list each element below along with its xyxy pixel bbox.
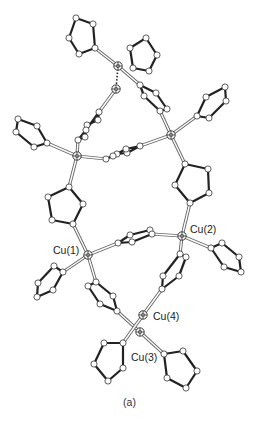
carbon-atom: [219, 240, 225, 246]
label-cu1: Cu(1): [53, 245, 79, 256]
carbon-atom: [93, 279, 99, 285]
label-cu2: Cu(2): [190, 224, 216, 235]
carbon-atom: [183, 254, 189, 260]
carbon-atom: [221, 264, 227, 270]
carbon-atom: [149, 231, 155, 237]
carbon-atom: [194, 113, 200, 119]
copper-atom-cu3: [136, 328, 144, 336]
carbon-atom: [176, 273, 182, 279]
carbon-atom: [180, 348, 186, 354]
carbon-atom: [60, 269, 66, 275]
carbon-atom: [153, 90, 159, 96]
carbon-atom: [49, 217, 55, 223]
carbon-atom: [70, 221, 76, 227]
carbon-atom: [31, 144, 37, 150]
label-cu4: Cu(4): [153, 311, 179, 322]
carbon-atom: [161, 351, 167, 357]
carbon-atom: [129, 239, 135, 245]
carbon-atom: [82, 134, 88, 140]
ring: [16, 119, 47, 147]
carbon-atom: [66, 35, 72, 41]
carbon-atom: [110, 153, 116, 159]
carbon-atom: [73, 15, 79, 21]
carbon-atom: [13, 129, 19, 135]
copper-atom-cuL: [73, 152, 81, 160]
molecular-structure-diagram: [0, 0, 259, 427]
carbon-atom: [50, 287, 56, 293]
carbon-atom: [90, 21, 96, 27]
carbon-atom: [44, 140, 50, 146]
carbon-atom: [182, 161, 188, 167]
ring: [162, 254, 186, 289]
copper-atom-cuR: [167, 131, 175, 139]
carbon-atom: [92, 45, 98, 51]
carbon-atom: [45, 194, 51, 200]
carbon-atom: [85, 283, 91, 289]
carbon-atom: [66, 184, 72, 190]
copper-atom-cuTop: [114, 62, 122, 70]
carbon-atom: [222, 84, 228, 90]
carbon-atom: [177, 251, 183, 257]
carbon-atom: [183, 385, 189, 391]
carbon-atom: [154, 52, 160, 58]
carbon-atom: [115, 240, 121, 246]
carbon-atom: [223, 98, 229, 104]
carbon-atom: [15, 116, 21, 122]
copper-atom-cuDash: [112, 85, 120, 93]
cut-off-caption-line: [8, 418, 248, 427]
copper-atom-cu2: [178, 232, 186, 240]
carbon-atom: [120, 365, 126, 371]
carbon-atom: [187, 200, 193, 206]
carbon-atom: [236, 254, 242, 260]
carbon-atom: [194, 368, 200, 374]
carbon-atom: [76, 51, 82, 57]
carbon-atom: [164, 375, 170, 381]
carbon-atom: [137, 82, 143, 88]
carbon-atom: [205, 166, 211, 172]
carbon-atom: [127, 232, 133, 238]
carbon-atom: [105, 378, 111, 384]
carbon-atom: [91, 361, 97, 367]
carbon-atom: [95, 117, 101, 123]
carbon-atom: [159, 286, 165, 292]
carbon-atom: [120, 340, 126, 346]
carbon-atom: [143, 35, 149, 41]
carbon-atom: [80, 201, 86, 207]
carbon-atom: [51, 263, 57, 269]
carbon-atom: [127, 45, 133, 51]
carbon-atom: [75, 137, 81, 143]
carbon-atom: [164, 106, 170, 112]
carbon-atom: [141, 93, 147, 99]
carbon-atom: [203, 94, 209, 100]
carbon-atom: [83, 127, 89, 133]
carbon-atom: [101, 340, 107, 346]
carbon-atom: [97, 301, 103, 307]
carbon-atom: [35, 280, 41, 286]
carbon-atom: [130, 65, 136, 71]
ring: [175, 164, 209, 203]
crystal-structure-figure: Cu(1) Cu(2) Cu(3) Cu(4) (a): [0, 0, 259, 427]
panel-label: (a): [0, 396, 259, 408]
ring: [197, 87, 226, 118]
carbon-atom: [34, 294, 40, 300]
carbon-atom: [206, 115, 212, 121]
carbon-atom: [160, 273, 166, 279]
carbon-atom: [137, 143, 143, 149]
carbon-atom: [103, 156, 109, 162]
carbon-atom: [146, 68, 152, 74]
carbon-atom: [96, 109, 102, 115]
carbon-atom: [208, 245, 214, 251]
label-cu3: Cu(3): [131, 352, 157, 363]
carbon-atom: [172, 182, 178, 188]
carbon-atom: [157, 108, 163, 114]
copper-atom-cu4: [139, 311, 147, 319]
ring: [164, 351, 197, 388]
carbon-atom: [110, 293, 116, 299]
copper-atom-cu1: [84, 251, 92, 259]
carbon-atom: [238, 269, 244, 275]
carbon-atom: [114, 308, 120, 314]
carbon-atom: [206, 190, 212, 196]
carbon-atom: [34, 123, 40, 129]
ring: [94, 343, 123, 381]
carbon-atom: [123, 146, 129, 152]
